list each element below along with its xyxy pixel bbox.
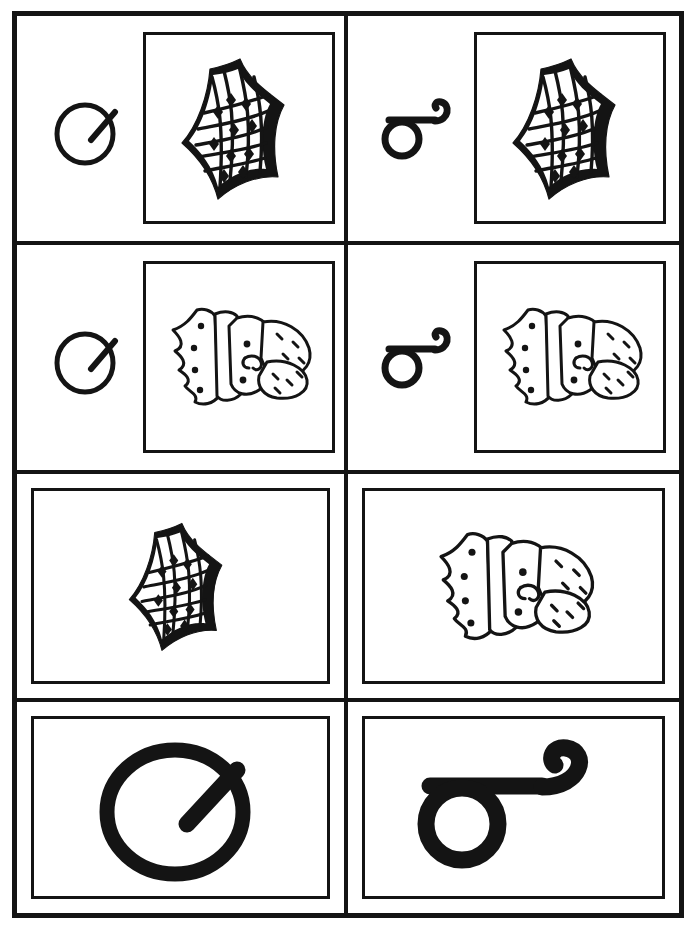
picture-box-r2c1 — [143, 261, 335, 453]
swaddled-baby-picture — [477, 264, 663, 450]
card-r1c2[interactable] — [348, 16, 679, 245]
letter-o-with-tick-large — [34, 719, 327, 896]
woven-mat-picture — [34, 491, 327, 681]
letter-o-with-tick-small — [33, 16, 143, 241]
letter-box-r4c1 — [31, 716, 330, 899]
swaddled-baby-picture — [365, 491, 662, 681]
woven-mat-picture — [146, 35, 332, 221]
letter-loop-with-hook-small — [364, 245, 474, 470]
card-r4c1[interactable] — [17, 702, 348, 913]
swaddled-baby-picture — [146, 264, 332, 450]
letter-loop-with-hook-large — [365, 719, 662, 896]
card-r4c2[interactable] — [348, 702, 679, 913]
worksheet-sheet — [0, 0, 696, 928]
picture-box-r1c2 — [474, 32, 666, 224]
picture-box-r2c2 — [474, 261, 666, 453]
picture-box-r1c1 — [143, 32, 335, 224]
picture-box-r3c2 — [362, 488, 665, 684]
card-r2c2[interactable] — [348, 245, 679, 474]
letter-o-with-tick-small — [33, 245, 143, 470]
card-grid — [12, 11, 684, 918]
woven-mat-picture — [477, 35, 663, 221]
card-r3c1[interactable] — [17, 474, 348, 702]
card-r3c2[interactable] — [348, 474, 679, 702]
card-r1c1[interactable] — [17, 16, 348, 245]
letter-box-r4c2 — [362, 716, 665, 899]
card-r2c1[interactable] — [17, 245, 348, 474]
letter-loop-with-hook-small — [364, 16, 474, 241]
picture-box-r3c1 — [31, 488, 330, 684]
